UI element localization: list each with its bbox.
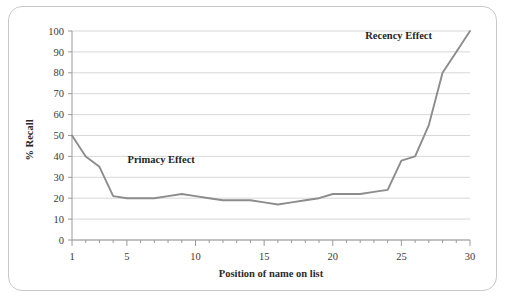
annotation-recency-effect: Recency Effect [365, 30, 432, 41]
grid-lines [72, 31, 470, 240]
y-tick-label: 80 [54, 67, 65, 78]
y-axis-title: % Recall [24, 119, 35, 160]
y-tick-label: 0 [59, 235, 64, 246]
y-tick-labels: 0102030405060708090100 [48, 26, 64, 246]
x-tick-label: 25 [396, 251, 407, 262]
x-tick-label: 15 [259, 251, 270, 262]
x-tick-labels: 151015202530 [69, 251, 475, 262]
x-tick-label: 1 [69, 251, 74, 262]
y-tick-label: 30 [54, 172, 65, 183]
chart-svg: 0102030405060708090100 151015202530 Prim… [0, 0, 511, 304]
y-tick-label: 70 [54, 88, 65, 99]
serial-position-curve-chart: 0102030405060708090100 151015202530 Prim… [0, 0, 511, 304]
y-tick-label: 20 [54, 193, 65, 204]
y-tick-label: 100 [48, 26, 64, 37]
y-tick-label: 60 [54, 109, 65, 120]
x-tick-label: 30 [465, 251, 476, 262]
x-axis [72, 240, 470, 246]
x-tick-label: 10 [190, 251, 201, 262]
data-series-line [72, 31, 470, 204]
y-tick-label: 90 [54, 47, 65, 58]
series-line [72, 31, 470, 204]
y-tick-label: 40 [54, 151, 65, 162]
chart-annotations: Primacy EffectRecency Effect [128, 30, 433, 164]
x-axis-title: Position of name on list [219, 268, 324, 279]
x-tick-label: 20 [328, 251, 339, 262]
annotation-primacy-effect: Primacy Effect [128, 154, 196, 165]
x-tick-label: 5 [124, 251, 129, 262]
y-tick-label: 50 [54, 130, 65, 141]
y-tick-label: 10 [54, 214, 65, 225]
